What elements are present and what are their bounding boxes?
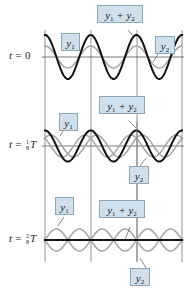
time-label-prefix: t =	[9, 49, 25, 61]
callout-y1-plus-y2: y1 + y2	[97, 5, 143, 23]
time-label-suffix: T	[30, 138, 36, 150]
callout-y1: y1	[61, 33, 80, 51]
time-label-suffix: T	[30, 232, 36, 244]
callout-y2: y2	[155, 36, 175, 54]
panel-t2-8	[44, 217, 183, 268]
callout-y2: y2	[130, 268, 150, 286]
callout-y1-plus-y2: y1 + y2	[99, 200, 145, 218]
time-label-prefix: t =	[9, 138, 25, 150]
fraction-denominator: 8	[26, 239, 29, 245]
fraction-denominator: 8	[26, 145, 29, 151]
time-label-prefix: t =	[9, 232, 25, 244]
time-fraction: 18	[26, 139, 29, 151]
time-label-value: 0	[25, 49, 31, 61]
callout-y2: y2	[129, 166, 149, 184]
callout-y1: y1	[59, 113, 78, 131]
time-fraction: 28	[26, 233, 29, 245]
callout-y1-plus-y2: y1 + y2	[99, 96, 145, 114]
time-label-t0: t = 0	[9, 49, 30, 61]
time-label-t1-8: t = 18T	[9, 138, 36, 151]
callout-y1: y1	[55, 197, 74, 215]
time-label-t2-8: t = 28T	[9, 232, 36, 245]
